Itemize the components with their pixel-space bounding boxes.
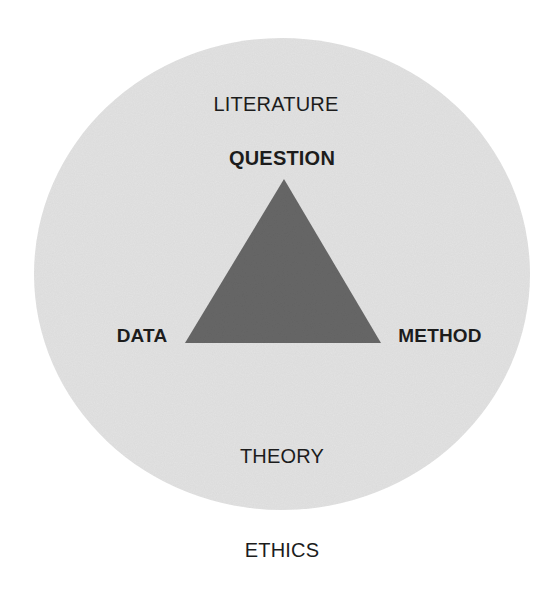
label-literature: LITERATURE	[214, 93, 339, 115]
label-method: METHOD	[398, 325, 482, 346]
label-ethics: ETHICS	[245, 539, 320, 561]
label-theory: THEORY	[240, 445, 324, 467]
label-data: DATA	[117, 325, 168, 346]
label-question: QUESTION	[229, 147, 335, 169]
research-design-diagram: LITERATURE QUESTION DATA METHOD THEORY E…	[0, 0, 546, 596]
